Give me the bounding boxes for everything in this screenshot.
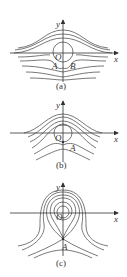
y-axis-label: y [55, 100, 60, 110]
caption-b: (b) [56, 160, 67, 170]
y-axis-label: y [55, 19, 60, 29]
x-axis-label: x [113, 134, 118, 144]
point-a-label: A [69, 143, 76, 153]
panel-a: y x O A B (a) [10, 19, 118, 91]
phase-portrait-figure: y x O A B (a) y x O A (b) [0, 0, 127, 277]
panel-c: y x O A (c) [10, 182, 118, 268]
x-axis-label: x [113, 54, 118, 64]
point-a-label: A [61, 242, 68, 252]
caption-c: (c) [56, 258, 66, 268]
origin-label: O [56, 212, 63, 222]
origin-label: O [55, 133, 62, 143]
caption-a: (a) [56, 81, 66, 91]
panel-b: y x O A (b) [10, 100, 118, 170]
point-a-label: A [51, 61, 58, 71]
x-axis-label: x [113, 214, 118, 224]
y-axis-label: y [55, 182, 60, 192]
point-b-label: B [70, 61, 76, 71]
